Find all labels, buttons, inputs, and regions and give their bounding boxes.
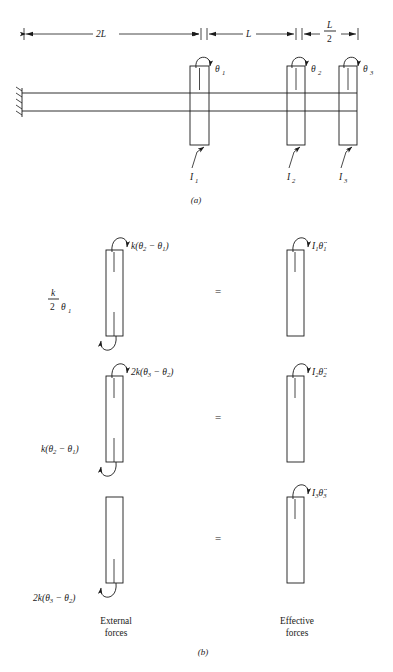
fbd-row-2-effective-label: I2θ̈2 (311, 367, 327, 378)
disc-1-rotation-label: θ (215, 64, 220, 74)
fbd-row-3: 2k(θ3 − θ2) = I3θ̈3 (33, 485, 327, 604)
effective-forces-caption-line1: Effective (280, 616, 314, 626)
fbd-row-1-equals: = (215, 285, 221, 297)
torsional-shaft-figure: 2L L L 2 (0, 0, 393, 672)
disc-3: θ 3 I 3 (338, 57, 374, 184)
disc-3-inertia-sub: 3 (343, 177, 348, 184)
fbd-row-2: 2k(θ3 − θ2) k(θ2 − θ1) = I2θ̈2 (41, 364, 327, 476)
panel-a: 2L L L 2 (16, 20, 374, 205)
fbd-row-1-top-torque-arrow (112, 238, 127, 272)
fbd-row-2-bottom-torque-arrow (101, 438, 116, 476)
disc-2-rotation-sub: 2 (318, 69, 322, 76)
fbd-row-1-effective-label: I1θ̈1 (311, 241, 327, 252)
fbd-row-3-effective-body (287, 497, 304, 583)
disc-1-rotation-sub: 1 (222, 69, 225, 76)
fbd-row-1: k(θ2 − θ1) k 2 θ 1 = I1θ̈1 (48, 238, 327, 350)
fbd-row-1-external-body (106, 250, 123, 336)
external-forces-caption-line1: External (100, 616, 132, 626)
external-forces-caption-line2: forces (105, 628, 128, 638)
disc-1: θ 1 I 1 (189, 57, 225, 184)
fbd-row-1-bottom-torque-arrow (101, 312, 116, 350)
fbd-row-2-external-body (106, 376, 123, 462)
disc-2-inertia-label: I (286, 172, 291, 182)
fbd-row-2-top-torque-arrow (112, 364, 127, 398)
fbd-row-2-equals: = (215, 411, 221, 423)
fbd-row-2-effective-arrow (293, 364, 308, 398)
disc-3-rotation-sub: 3 (369, 69, 374, 76)
fbd-row-1-top-torque-label: k(θ2 − θ1) (131, 241, 169, 252)
disc-2-inertia-sub: 2 (292, 177, 296, 184)
disc-3-rotation-label: θ (363, 64, 368, 74)
fixed-support (16, 87, 22, 117)
fbd-row-3-effective-arrow (293, 485, 308, 519)
disc-1-inertia-sub: 1 (195, 177, 198, 184)
panel-a-caption: (a) (191, 195, 202, 205)
dimension-l-label: L (245, 29, 251, 39)
disc-3-inertia-label: I (338, 172, 343, 182)
dimension-l-numerator: L (326, 20, 332, 30)
dimension-2l-label: 2L (96, 29, 106, 39)
disc-2-rotation-label: θ (311, 64, 316, 74)
fbd-row-3-equals: = (215, 532, 221, 544)
fbd-row-3-bottom-torque-label: 2k(θ3 − θ2) (33, 593, 75, 604)
fbd-row-1-bottom-torque-label: k 2 θ 1 (48, 288, 71, 314)
fbd-row-1-effective-body (287, 250, 304, 336)
fbd-row-2-effective-body (287, 376, 304, 462)
fbd-row-2-top-torque-label: 2k(θ3 − θ2) (131, 367, 173, 378)
svg-text:θ: θ (61, 302, 66, 312)
disc-2: θ 2 I 2 (286, 57, 322, 184)
svg-text:2: 2 (50, 302, 55, 312)
fbd-row-1-effective-arrow (293, 238, 308, 272)
disc-1-inertia-label: I (189, 172, 194, 182)
svg-text:k: k (51, 288, 56, 298)
fbd-row-3-effective-label: I3θ̈3 (311, 488, 327, 499)
effective-forces-caption-line2: forces (286, 628, 309, 638)
dimension-l: L (207, 28, 296, 40)
dimension-l-denominator: 2 (327, 34, 332, 44)
fbd-row-3-external-body (106, 497, 123, 583)
panel-b-caption: (b) (198, 647, 209, 657)
fbd-row-2-bottom-torque-label: k(θ2 − θ1) (41, 444, 79, 455)
column-captions: External forces Effective forces (100, 616, 314, 638)
dimension-2l: 2L (24, 28, 201, 40)
fbd-row-3-bottom-torque-arrow (101, 559, 116, 597)
dimension-l-over-2: L 2 (302, 20, 358, 44)
svg-text:1: 1 (68, 307, 71, 314)
shaft (22, 93, 357, 111)
